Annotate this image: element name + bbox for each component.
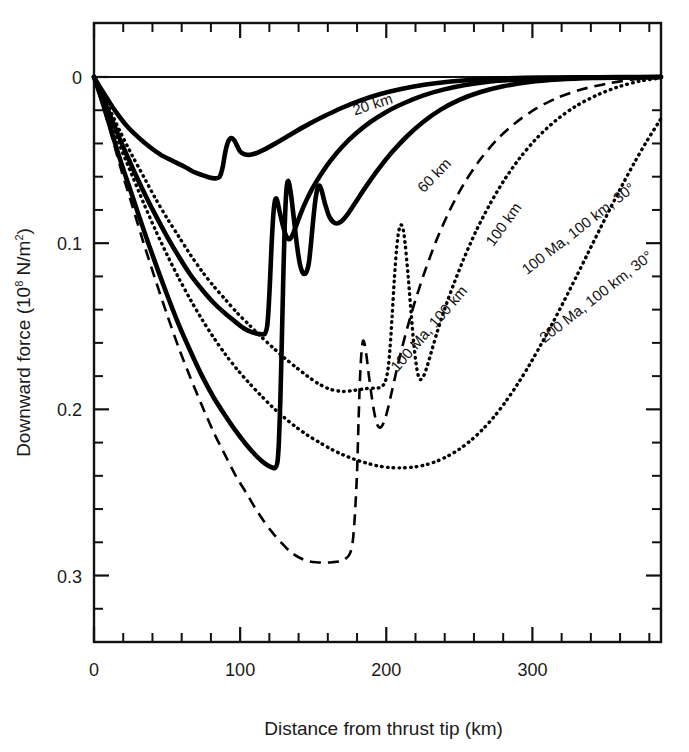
downward-force-chart: 010020030000.10.20.320 km60 km100 km100 … — [0, 0, 689, 752]
curve-annotation: 60 km — [414, 154, 455, 195]
y-tick-label: 0 — [72, 68, 82, 88]
x-tick-label: 100 — [225, 660, 255, 680]
y-tick-label: 0.3 — [57, 567, 82, 587]
curve-100-km — [94, 77, 661, 468]
x-tick-label: 300 — [517, 660, 547, 680]
curve-annotation: 200 Ma, 100 km, 30° — [536, 247, 656, 346]
curve-200-ma-100-km-30 — [94, 77, 661, 468]
x-tick-label: 0 — [89, 660, 99, 680]
curve-20-km — [94, 77, 661, 178]
y-axis-title: Downward force (108 N/m2) — [13, 228, 34, 457]
y-tick-label: 0.2 — [57, 400, 82, 420]
curve-60-km — [94, 77, 661, 334]
x-axis-title: Distance from thrust tip (km) — [264, 718, 503, 739]
curve-annotation: 20 km — [350, 89, 394, 118]
curve-annotation: 100 Ma, 100 km, 30° — [518, 179, 638, 278]
figure-container: 010020030000.10.20.320 km60 km100 km100 … — [0, 0, 689, 752]
x-tick-label: 200 — [371, 660, 401, 680]
y-tick-label: 0.1 — [57, 234, 82, 254]
curve-annotation: 100 Ma, 100 km — [387, 282, 470, 374]
